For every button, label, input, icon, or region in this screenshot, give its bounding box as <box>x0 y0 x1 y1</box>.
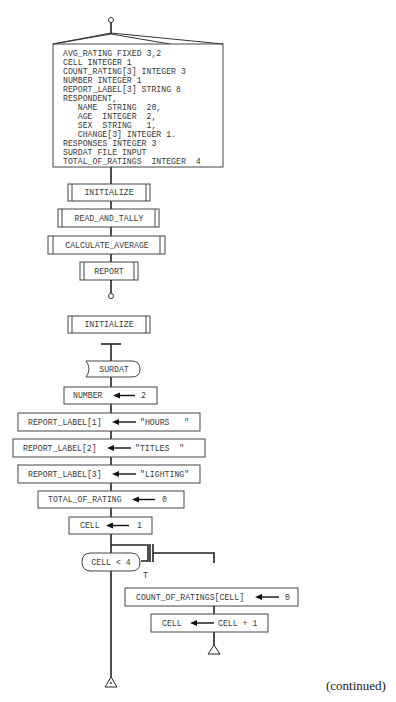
call-label: CALCULATE_AVERAGE <box>65 241 149 250</box>
svg-text:REPORT_LABEL[2]: REPORT_LABEL[2] <box>23 444 97 453</box>
call-report: REPORT <box>80 262 138 280</box>
assign-cell: CELL 1 <box>69 517 152 534</box>
svg-text:2: 2 <box>141 391 146 400</box>
main-exit-connector <box>109 294 114 299</box>
svg-text:"HOURS ": "HOURS " <box>140 418 189 427</box>
decl-line: TOTAL_OF_RATINGS INTEGER 4 <box>63 157 201 166</box>
svg-text:REPORT_LABEL[3]: REPORT_LABEL[3] <box>28 470 102 479</box>
decl-line: RESPONSES INTEGER 3 <box>63 139 156 148</box>
svg-text:CELL: CELL <box>80 521 100 530</box>
call-initialize: INITIALIZE <box>68 184 150 201</box>
decl-line: AGE INTEGER 2, <box>63 112 156 121</box>
main-entry-connector <box>109 18 114 35</box>
assign-number: NUMBER 2 <box>64 387 157 404</box>
loop-condition: CELL < 4 T <box>82 553 148 580</box>
decl-line: SEX STRING 1, <box>63 121 156 130</box>
svg-text:TOTAL_OF_RATING: TOTAL_OF_RATING <box>48 495 122 504</box>
assign-cell-increment: CELL CELL + 1 <box>151 614 268 632</box>
svg-text:"TITLES ": "TITLES " <box>135 444 184 453</box>
assign-report-label-1: REPORT_LABEL[1] "HOURS " <box>18 413 200 431</box>
svg-text:CELL + 1: CELL + 1 <box>218 619 257 628</box>
svg-text:"LIGHTING": "LIGHTING" <box>140 470 189 479</box>
decl-line: COUNT_RATING[3] INTEGER 3 <box>63 67 186 76</box>
svg-text:COUNT_OF_RATINGS[CELL]: COUNT_OF_RATINGS[CELL] <box>136 593 244 602</box>
svg-text:1: 1 <box>137 521 142 530</box>
decl-line: NUMBER INTEGER 1 <box>63 76 142 85</box>
svg-text:0: 0 <box>285 593 290 602</box>
true-label: T <box>143 571 148 580</box>
decl-line: CHANGE[3] INTEGER 1. <box>63 130 176 139</box>
decl-line: REPORT_LABEL[3] STRING 8 <box>63 85 181 94</box>
initialize-module-header: INITIALIZE <box>68 316 150 333</box>
assign-report-label-3: REPORT_LABEL[3] "LIGHTING" <box>18 465 200 483</box>
file-name: SURDAT <box>99 365 129 374</box>
decl-line: CELL INTEGER 1 <box>63 58 132 67</box>
svg-text:NUMBER: NUMBER <box>73 391 103 400</box>
loop-return-connector <box>208 645 220 654</box>
call-calculate-average: CALCULATE_AVERAGE <box>48 236 165 254</box>
call-label: REPORT <box>94 267 124 276</box>
offpage-connector <box>105 677 117 687</box>
decl-line: SURDAT FILE INPUT <box>63 148 147 157</box>
svg-text:CELL < 4: CELL < 4 <box>91 558 130 567</box>
file-open-surdat: SURDAT <box>86 361 140 377</box>
call-read-and-tally: READ_AND_TALLY <box>58 209 159 227</box>
decl-line: RESPONDENT, <box>63 94 117 103</box>
call-label: READ_AND_TALLY <box>75 214 144 223</box>
svg-text:REPORT_LABEL[1]: REPORT_LABEL[1] <box>28 418 102 427</box>
decl-line: AVG_RATING FIXED 3,2 <box>63 49 161 58</box>
assign-total-of-rating: TOTAL_OF_RATING 0 <box>38 491 184 508</box>
flowchart-canvas: AVG_RATING FIXED 3,2 CELL INTEGER 1 COUN… <box>0 0 396 702</box>
decl-line: NAME STRING 20, <box>63 103 161 112</box>
call-label: INITIALIZE <box>84 188 133 197</box>
assign-count-of-ratings: COUNT_OF_RATINGS[CELL] 0 <box>125 588 298 606</box>
svg-text:CELL: CELL <box>162 619 182 628</box>
svg-text:0: 0 <box>162 495 167 504</box>
module-title: INITIALIZE <box>84 320 133 329</box>
assign-report-label-2: REPORT_LABEL[2] "TITLES " <box>13 439 205 457</box>
continued-label: (continued) <box>326 678 386 693</box>
